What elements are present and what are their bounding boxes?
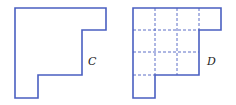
shape-c: C	[15, 8, 106, 98]
label-d: D	[206, 55, 216, 68]
shape-d: D	[133, 8, 221, 98]
label-c: C	[88, 55, 97, 68]
diagram-canvas: C D	[0, 0, 236, 105]
grid-dashes	[133, 8, 199, 75]
